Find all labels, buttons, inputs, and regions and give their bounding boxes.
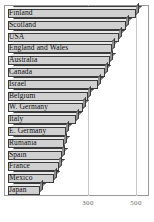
bar-side-face xyxy=(98,74,101,86)
bar-chart: FinlandScotlandUSAEngland and WalesAustr… xyxy=(0,0,154,222)
bar-category-label: Finland xyxy=(9,8,33,17)
bar-category-label: W. Germany xyxy=(9,102,48,111)
bar-side-face xyxy=(88,86,91,98)
bar-category-label: France xyxy=(9,161,30,170)
bar-row: Spain xyxy=(8,148,66,160)
bar-side-face xyxy=(119,27,122,39)
x-tick-label: 300 xyxy=(82,199,93,207)
bar-category-label: England and Wales xyxy=(9,43,68,52)
bar-category-label: Japan xyxy=(9,185,27,194)
bar-side-face xyxy=(64,133,67,145)
x-tick-label: 500 xyxy=(130,199,141,207)
bar-row: Italy xyxy=(8,112,80,124)
bar-side-face xyxy=(40,180,43,192)
bar-side-face xyxy=(76,109,79,121)
bar-category-label: Israel xyxy=(9,79,26,88)
bar-row: Mexico xyxy=(8,171,58,183)
bar-row: England and Wales xyxy=(8,41,116,53)
bar-category-label: Australia xyxy=(9,55,37,64)
bar-row: Japan xyxy=(8,183,44,195)
bar-row: USA xyxy=(8,30,123,42)
bar-row: Scotland xyxy=(8,18,130,30)
bar-side-face xyxy=(54,168,57,180)
bar-side-face xyxy=(110,50,113,62)
bar-row: E. Germany xyxy=(8,124,70,136)
bar-category-label: Belgium xyxy=(9,91,36,100)
gridline-500 xyxy=(136,5,137,196)
bar-category-label: Rumania xyxy=(9,138,37,147)
bar-row: W. Germany xyxy=(8,100,87,112)
bar-row: Belgium xyxy=(8,89,92,101)
bar-category-label: USA xyxy=(9,32,24,41)
bar-side-face xyxy=(59,156,62,168)
bar-row: Canada xyxy=(8,65,109,77)
bar-side-face xyxy=(105,62,108,74)
bar-row: Finland xyxy=(8,6,140,18)
bar-side-face xyxy=(126,15,129,27)
bar-side-face xyxy=(83,97,86,109)
bar-category-label: Italy xyxy=(9,114,23,123)
bar-category-label: Scotland xyxy=(9,20,36,29)
bar-category-label: Spain xyxy=(9,150,27,159)
bar-row: Australia xyxy=(8,53,114,65)
bar-category-label: Canada xyxy=(9,67,32,76)
bar-side-face xyxy=(62,145,65,157)
bar-side-face xyxy=(136,3,139,15)
bar-category-label: E. Germany xyxy=(9,126,46,135)
bar-category-label: Mexico xyxy=(9,173,33,182)
bar-row: Rumania xyxy=(8,136,68,148)
bar-row: Israel xyxy=(8,77,102,89)
